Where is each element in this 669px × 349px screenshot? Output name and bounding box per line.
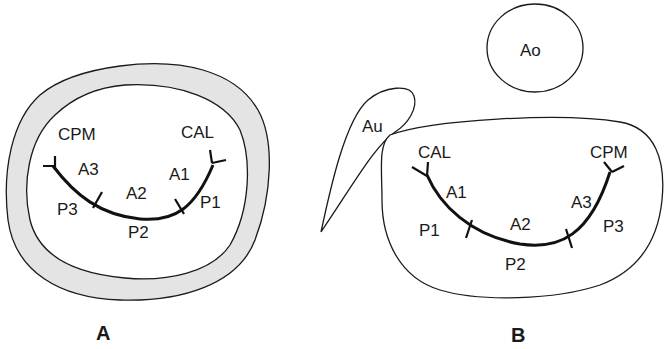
label-ao: Ao	[520, 41, 541, 60]
panel-b: Ao Au CAL CPM A1 A2 A3 P1 P2 P3 B	[321, 4, 663, 346]
label-cal-a: CAL	[181, 123, 214, 142]
inner-annulus-ring	[27, 85, 248, 279]
label-cpm-b: CPM	[590, 143, 628, 162]
label-a2-a: A2	[126, 184, 147, 203]
panel-a: CPM CAL A3 A2 A1 P3 P2 P1 A	[6, 64, 269, 344]
label-p1-b: P1	[419, 221, 440, 240]
panel-label-b: B	[511, 324, 525, 346]
label-p1-a: P1	[200, 193, 221, 212]
label-cpm-a: CPM	[58, 125, 96, 144]
label-a3-b: A3	[571, 193, 592, 212]
label-au: Au	[362, 117, 383, 136]
label-a1-b: A1	[446, 183, 467, 202]
panel-label-a: A	[96, 322, 110, 344]
label-a2-b: A2	[510, 215, 531, 234]
label-p2-b: P2	[505, 255, 526, 274]
label-cal-b: CAL	[418, 143, 451, 162]
label-p2-a: P2	[128, 223, 149, 242]
label-p3-b: P3	[603, 217, 624, 236]
label-p3-a: P3	[57, 200, 78, 219]
mitral-valve-diagram: CPM CAL A3 A2 A1 P3 P2 P1 A Ao Au CAL CP…	[0, 0, 669, 349]
label-a3-a: A3	[78, 160, 99, 179]
label-a1-a: A1	[169, 165, 190, 184]
